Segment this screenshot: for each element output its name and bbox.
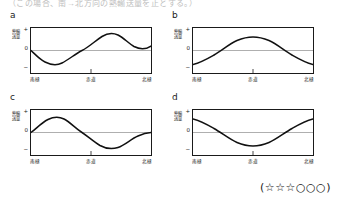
x-axis-d: 南極 赤道 北極	[192, 158, 314, 168]
y-tick-minus-a: −	[20, 65, 28, 71]
data-curve-c	[31, 117, 151, 148]
x-axis-a: 南極 赤道 北極	[30, 76, 152, 86]
plot-frame-c	[30, 109, 152, 156]
x-tick-south-pole-b: 南極	[192, 77, 202, 82]
panel-label-c: c	[10, 93, 15, 102]
x-axis-b: 南極 赤道 北極	[192, 76, 314, 86]
panel-label-a: a	[10, 11, 16, 20]
x-tick-equator-d: 赤道	[248, 159, 258, 164]
x-tick-south-pole-c: 南極	[30, 159, 40, 164]
y-tick-zero-b: 0	[182, 46, 190, 52]
y-axis-label-a: 熱輸送量	[12, 30, 20, 39]
y-tick-zero-c: 0	[20, 128, 28, 134]
y-tick-minus-d: −	[182, 147, 190, 153]
curve-svg-c	[31, 110, 151, 155]
curve-svg-d	[193, 110, 313, 155]
x-tick-north-pole-c: 北極	[142, 159, 152, 164]
x-tick-north-pole-d: 北極	[304, 159, 314, 164]
plot-frame-d	[192, 109, 314, 156]
x-tick-south-pole-a: 南極	[30, 77, 40, 82]
y-tick-zero-a: 0	[20, 46, 28, 52]
y-tick-plus-d: +	[182, 109, 190, 115]
y-axis-label-b: 熱輸送量	[174, 30, 182, 39]
curve-svg-a	[31, 28, 151, 73]
y-axis-label-c: 熱輸送量	[12, 112, 20, 121]
x-tick-equator-b: 赤道	[248, 77, 258, 82]
data-curve-a	[31, 34, 151, 65]
y-tick-zero-d: 0	[182, 128, 190, 134]
y-tick-plus-a: +	[20, 27, 28, 33]
chart-grid: a 熱輸送量 + 0 − 南極 赤道 北極 b 熱輸送量 +	[0, 12, 337, 182]
difficulty-rating: (☆☆☆○○○)	[260, 182, 331, 194]
plot-frame-a	[30, 27, 152, 74]
x-tick-north-pole-a: 北極	[142, 77, 152, 82]
panel-label-d: d	[172, 93, 178, 102]
y-tick-plus-c: +	[20, 109, 28, 115]
x-tick-equator-a: 赤道	[86, 77, 96, 82]
plot-frame-b	[192, 27, 314, 74]
x-tick-south-pole-d: 南極	[192, 159, 202, 164]
y-tick-minus-b: −	[182, 65, 190, 71]
y-tick-minus-c: −	[20, 147, 28, 153]
y-axis-label-d: 熱輸送量	[174, 112, 182, 121]
curve-svg-b	[193, 28, 313, 73]
x-tick-north-pole-b: 北極	[304, 77, 314, 82]
x-axis-c: 南極 赤道 北極	[30, 158, 152, 168]
x-tick-equator-c: 赤道	[86, 159, 96, 164]
question-prompt-text: （この場合、南→北方向の熱輸送量を正とする。）	[8, 0, 197, 8]
panel-label-b: b	[172, 11, 178, 20]
y-tick-plus-b: +	[182, 27, 190, 33]
